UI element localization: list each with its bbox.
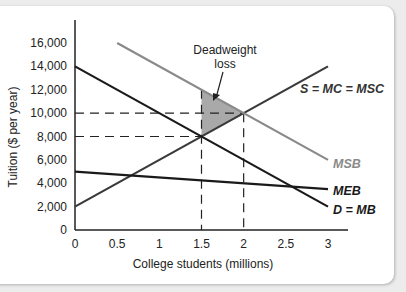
annotation-loss: loss bbox=[214, 57, 235, 71]
label-supply-mc-msc: S = MC = MSC bbox=[300, 82, 385, 96]
x-tick-label: 1.5 bbox=[193, 237, 210, 251]
annotation-arrow-shaft bbox=[216, 72, 223, 98]
y-tick-label: 10,000 bbox=[30, 106, 67, 120]
label-demand-mb: D = MB bbox=[333, 203, 376, 217]
y-tick-label: 16,000 bbox=[30, 36, 67, 50]
y-tick-label: 0 bbox=[60, 223, 67, 237]
annotation-deadweight: Deadweight bbox=[193, 43, 257, 57]
y-tick-label: 12,000 bbox=[30, 83, 67, 97]
y-tick-label: 4,000 bbox=[37, 176, 67, 190]
x-tick-label: 1 bbox=[156, 237, 163, 251]
x-tick-label: 0.5 bbox=[109, 237, 126, 251]
chart-plot: 02,0004,0006,0008,00010,00012,00014,0001… bbox=[0, 0, 406, 292]
x-axis-title: College students (millions) bbox=[133, 257, 274, 271]
label-meb: MEB bbox=[333, 184, 361, 198]
label-msb: MSB bbox=[333, 157, 361, 171]
deadweight-loss-area bbox=[202, 90, 244, 137]
x-tick-label: 2.5 bbox=[277, 237, 294, 251]
y-tick-label: 8,000 bbox=[37, 130, 67, 144]
x-tick-label: 3 bbox=[325, 237, 332, 251]
y-tick-label: 14,000 bbox=[30, 59, 67, 73]
y-tick-label: 6,000 bbox=[37, 153, 67, 167]
y-axis-title: Tuition ($ per year) bbox=[6, 87, 20, 188]
y-tick-label: 2,000 bbox=[37, 200, 67, 214]
x-tick-label: 2 bbox=[240, 237, 247, 251]
x-tick-label: 0 bbox=[72, 237, 79, 251]
